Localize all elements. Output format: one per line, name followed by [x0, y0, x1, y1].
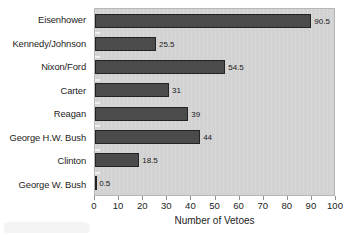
bar-value-label: 44	[203, 132, 212, 141]
x-axis-tick-label: 40	[185, 200, 196, 211]
x-axis-tick-label: 100	[327, 200, 343, 211]
x-axis-tick-label: 90	[306, 200, 317, 211]
y-axis-tick	[95, 32, 100, 34]
bar[interactable]	[95, 176, 97, 190]
bar-value-label: 31	[172, 86, 181, 95]
x-axis-tick-label: 60	[233, 200, 244, 211]
y-axis-tick	[95, 149, 100, 151]
category-label: Carter	[0, 79, 91, 103]
bar-value-label: 54.5	[228, 63, 244, 72]
category-label: Nixon/Ford	[0, 55, 91, 79]
category-label: Reagan	[0, 102, 91, 126]
bar-row: 44	[95, 125, 334, 148]
category-label: Eisenhower	[0, 8, 91, 32]
x-axis-tick-label: 0	[91, 200, 96, 211]
bar-value-label: 25.5	[159, 39, 175, 48]
category-label: Clinton	[0, 149, 91, 173]
category-label: Kennedy/Johnson	[0, 32, 91, 56]
x-axis-tick-label: 80	[282, 200, 293, 211]
bar-row: 54.5	[95, 56, 334, 79]
bar-value-label: 39	[191, 109, 200, 118]
bar-value-label: 0.5	[99, 179, 110, 188]
x-axis-tick-label: 50	[209, 200, 220, 211]
bar-row: 90.5	[95, 9, 334, 32]
bar-chart: EisenhowerKennedy/JohnsonNixon/FordCarte…	[0, 0, 348, 235]
bar[interactable]	[95, 14, 311, 28]
plot-area: 90.525.554.531394418.50.5	[94, 8, 335, 196]
x-axis-tick-label: 10	[113, 200, 124, 211]
bar[interactable]	[95, 107, 188, 121]
bar-row: 25.5	[95, 32, 334, 55]
bar-row: 0.5	[95, 172, 334, 195]
category-label: George W. Bush	[0, 173, 91, 197]
y-axis-tick	[95, 56, 100, 58]
bar[interactable]	[95, 60, 225, 74]
bar[interactable]	[95, 130, 200, 144]
x-axis-tick-label: 20	[137, 200, 148, 211]
y-axis-tick	[95, 79, 100, 81]
bar[interactable]	[95, 37, 156, 51]
bar-row: 39	[95, 102, 334, 125]
x-axis-tick-labels: 0102030405060708090100	[94, 200, 335, 214]
y-axis-tick	[95, 125, 100, 127]
bar-value-label: 18.5	[142, 156, 158, 165]
bar-value-label: 90.5	[314, 16, 330, 25]
bar-row: 18.5	[95, 149, 334, 172]
x-axis-title: Number of Vetoes	[94, 215, 335, 226]
category-label: George H.W. Bush	[0, 126, 91, 150]
y-axis-tick	[95, 102, 100, 104]
bar-series: 90.525.554.531394418.50.5	[95, 9, 334, 195]
bar[interactable]	[95, 153, 139, 167]
bar[interactable]	[95, 83, 169, 97]
bar-row: 31	[95, 79, 334, 102]
x-axis-tick-label: 70	[257, 200, 268, 211]
y-axis-tick	[95, 172, 100, 174]
x-axis-tick-label: 30	[161, 200, 172, 211]
category-axis-labels: EisenhowerKennedy/JohnsonNixon/FordCarte…	[0, 8, 91, 196]
scan-artifact	[4, 222, 90, 233]
